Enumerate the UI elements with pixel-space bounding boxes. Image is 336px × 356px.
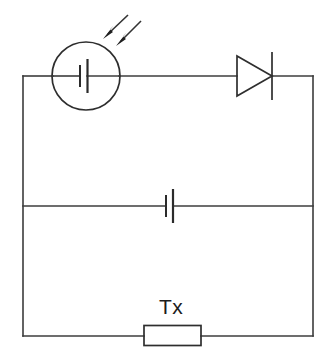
- light-ray-arrow-2: [116, 21, 141, 46]
- schematic-canvas: Tx: [0, 0, 336, 356]
- photovoltaic-cell: [52, 42, 120, 110]
- diode: [237, 52, 272, 100]
- circuit-diagram: Tx: [0, 0, 336, 356]
- light-ray-1-arrowhead: [103, 26, 114, 40]
- light-ray-arrow-1: [103, 15, 128, 39]
- resistor-body: [144, 326, 201, 346]
- resistor-label: Tx: [159, 295, 183, 318]
- incident-light-arrows: [103, 15, 141, 46]
- battery-cell: [166, 189, 173, 223]
- light-ray-2-arrowhead: [116, 33, 127, 47]
- diode-triangle: [237, 56, 272, 96]
- resistor-tx: [144, 326, 201, 346]
